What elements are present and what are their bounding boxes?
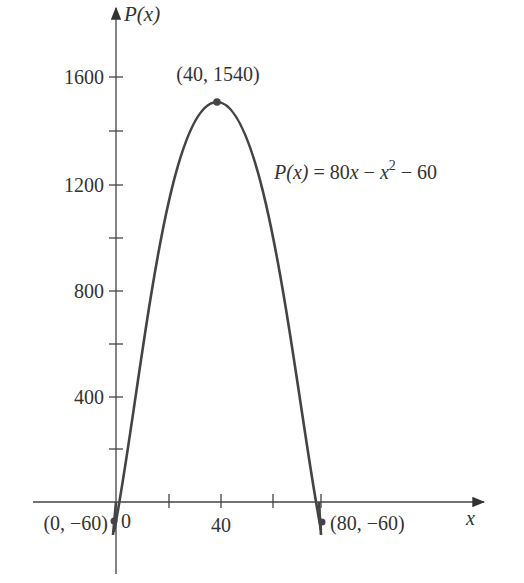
function-label: P(x) = 80x − x2 − 60 [273,158,437,184]
x-tick-label-40: 40 [211,514,231,536]
y-tick-label-800: 800 [74,280,104,302]
right-point-label: (80, −60) [330,512,405,535]
left-point-label: (0, −60) [43,512,108,535]
function-exponent: 2 [389,158,396,173]
function-rhs-a: = 80 [313,161,349,183]
x-ticks [169,494,321,508]
vertex-point [213,98,221,106]
function-lhs: P(x) [273,161,309,184]
right-intercept-point [319,519,326,526]
y-tick-label-400: 400 [74,386,104,408]
y-tick-label-1200: 1200 [64,174,104,196]
vertex-label: (40, 1540) [176,63,259,86]
y-axis-label: P(x) [123,2,160,26]
function-x2: x [379,161,389,183]
function-x: x [349,161,359,183]
origin-label: 0 [121,510,131,532]
y-tick-label-1600: 1600 [64,66,104,88]
left-intercept-point [111,518,118,525]
function-minus: − [359,161,380,183]
function-constant: − 60 [396,161,437,183]
profit-function-chart: 1600 1200 800 400 0 40 P(x) x (40, 1540)… [0,0,524,583]
x-axis-label: x [465,507,475,529]
